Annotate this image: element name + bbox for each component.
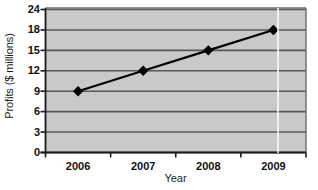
x-tick-label: 2009: [261, 160, 285, 172]
x-tick-label: 2007: [131, 160, 155, 172]
x-tick-labels: 2006200720082009: [0, 0, 318, 190]
y-axis-title: Profits ($ millions): [1, 0, 17, 152]
x-tick-label: 2006: [66, 160, 90, 172]
x-tick-label: 2008: [196, 160, 220, 172]
x-axis-title: Year: [45, 172, 306, 184]
line-chart: 036912151824 2006200720082009 Profits ($…: [0, 0, 318, 190]
